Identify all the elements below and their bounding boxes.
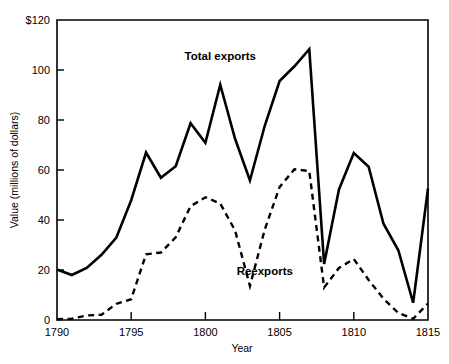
line-chart: 020406080100$120 17901795180018051810181…	[0, 0, 449, 364]
x-tick-label: 1795	[119, 326, 143, 338]
y-tick-label: 0	[44, 314, 50, 326]
x-tick-label: 1800	[193, 326, 217, 338]
y-tick-label: 80	[38, 114, 50, 126]
annotation-total-exports: Total exports	[185, 50, 256, 62]
x-tick-label: 1805	[267, 326, 291, 338]
x-tick-label: 1810	[342, 326, 366, 338]
annotation-reexports: Reexports	[237, 265, 293, 277]
y-tick-label: 20	[38, 264, 50, 276]
x-tick-label: 1815	[416, 326, 440, 338]
y-axis-title: Value (millions of dollars)	[8, 112, 20, 229]
x-axis-title: Year	[231, 342, 253, 354]
y-tick-label: 40	[38, 214, 50, 226]
y-tick-label: 60	[38, 164, 50, 176]
chart-container: 020406080100$120 17901795180018051810181…	[0, 0, 449, 364]
y-tick-label: $120	[26, 14, 50, 26]
y-tick-label: 100	[32, 64, 50, 76]
x-tick-label: 1790	[45, 326, 69, 338]
